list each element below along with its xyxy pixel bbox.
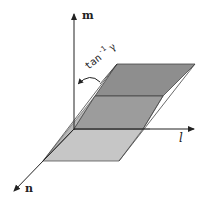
angle-annotation: tan -1 γ bbox=[81, 39, 117, 71]
m-axis-label: m bbox=[82, 9, 94, 22]
l-axis-label: l bbox=[179, 131, 183, 145]
angle-arc bbox=[78, 77, 100, 84]
upper-plane bbox=[95, 64, 195, 96]
shear-diagram: m l n tan -1 γ bbox=[0, 0, 205, 206]
n-axis-label: n bbox=[25, 182, 33, 195]
svg-text:γ: γ bbox=[106, 41, 118, 53]
middle-plane bbox=[74, 96, 163, 129]
